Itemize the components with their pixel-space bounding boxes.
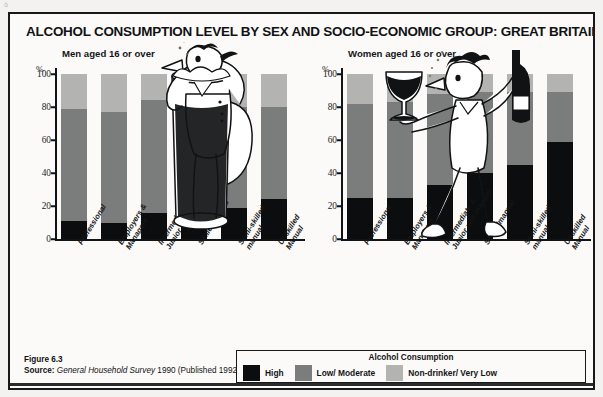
bar-segment-non-drinker-men-0 [61,74,87,109]
bar-women-0[interactable] [347,74,373,239]
x-label-group-men: ProfessionalEmployers &ManagersIntermedi… [61,239,301,319]
y-tick-mark-men-0 [51,238,56,240]
y-tick-mark-men-3 [51,139,56,141]
y-tick-label-women-5: 100 [323,69,337,79]
bar-segment-non-drinker-men-4 [221,74,247,107]
y-tick-label-men-2: 40 [42,168,51,178]
plot-area-women: 020406080100 ProfessionalEmployers &Mana… [341,74,587,239]
legend-title: Alcohol Consumption [237,353,585,362]
legend: Alcohol Consumption HighLow/ ModerateNon… [236,350,586,383]
legend-swatch-0 [243,365,260,381]
bar-men-4[interactable] [221,74,247,239]
chart-panel-women: Women aged 16 or over % 020406080100 Pro… [310,48,595,338]
page-background: ó ALCOHOL CONSUMPTION LEVEL BY SEX AND S… [0,0,603,397]
bar-segment-non-drinker-women-2 [427,74,453,94]
footer-rule [10,383,593,386]
y-tick-label-women-1: 20 [328,201,337,211]
bar-segment-low-moderate-men-2 [141,100,167,212]
y-tick-mark-women-4 [337,106,342,108]
bar-segment-low-moderate-women-2 [427,94,453,185]
bar-segment-non-drinker-women-1 [387,74,413,102]
chart-panel-men: Men aged 16 or over % 020406080100 Profe… [24,48,309,338]
bar-segment-low-moderate-men-5 [261,107,287,199]
bar-segment-low-moderate-men-4 [221,107,247,208]
y-axis-men [55,68,57,239]
y-tick-label-women-3: 60 [328,135,337,145]
source-title: General Household Survey [57,366,155,375]
bar-segment-low-moderate-women-3 [467,92,493,173]
bar-segment-non-drinker-women-0 [347,74,373,104]
bar-segment-non-drinker-men-2 [141,74,167,100]
bar-segment-non-drinker-women-4 [507,74,533,92]
bar-segment-non-drinker-women-3 [467,74,493,92]
bar-women-1[interactable] [387,74,413,239]
y-tick-mark-men-4 [51,106,56,108]
bar-segment-non-drinker-women-5 [547,74,573,92]
scan-artifact: ó [3,1,7,8]
bar-men-1[interactable] [101,74,127,239]
bar-segment-non-drinker-men-1 [101,74,127,112]
legend-item-list: HighLow/ ModerateNon-drinker/ Very Low [243,364,581,382]
y-axis-women [341,68,343,239]
bar-segment-low-moderate-women-4 [507,92,533,165]
bar-segment-low-moderate-men-0 [61,109,87,221]
y-tick-mark-women-0 [337,238,342,240]
figure-number: Figure 6.3 [24,355,63,364]
y-tick-label-men-5: 100 [37,69,51,79]
y-tick-label-women-2: 40 [328,168,337,178]
y-tick-mark-men-5 [51,73,56,75]
y-tick-mark-women-5 [337,73,342,75]
plot-area-men: 020406080100 ProfessionalEmployers &Mana… [55,74,301,239]
y-tick-label-men-1: 20 [42,201,51,211]
y-tick-mark-women-3 [337,139,342,141]
legend-label-2: Non-drinker/ Very Low [408,368,497,378]
bar-segment-low-moderate-women-0 [347,104,373,198]
figure-frame: ALCOHOL CONSUMPTION LEVEL BY SEX AND SOC… [8,12,595,390]
y-tick-mark-men-1 [51,205,56,207]
bar-men-0[interactable] [61,74,87,239]
y-tick-mark-men-2 [51,172,56,174]
legend-label-0: High [265,368,284,378]
page-title: ALCOHOL CONSUMPTION LEVEL BY SEX AND SOC… [26,24,594,39]
bar-women-4[interactable] [507,74,533,239]
legend-swatch-1 [295,365,312,381]
x-label-group-women: ProfessionalEmployers &ManagersIntermedi… [347,239,587,319]
y-tick-label-men-4: 80 [42,102,51,112]
y-tick-mark-women-1 [337,205,342,207]
source-label: Source: [24,366,54,375]
bar-segment-non-drinker-men-3 [181,74,207,107]
legend-label-1: Low/ Moderate [317,368,376,378]
bar-segment-non-drinker-men-5 [261,74,287,107]
bar-segment-low-moderate-women-1 [387,102,413,198]
y-tick-label-women-4: 80 [328,102,337,112]
figure-caption: Figure 6.3 Source: General Household Sur… [24,354,242,376]
chart-caption-women: Women aged 16 or over [348,48,456,59]
chart-caption-men: Men aged 16 or over [62,48,155,59]
bar-segment-low-moderate-women-5 [547,92,573,142]
y-tick-label-men-3: 60 [42,135,51,145]
y-tick-mark-women-2 [337,172,342,174]
source-detail: 1990 (Published 1992). [157,366,242,375]
legend-swatch-2 [386,365,403,381]
